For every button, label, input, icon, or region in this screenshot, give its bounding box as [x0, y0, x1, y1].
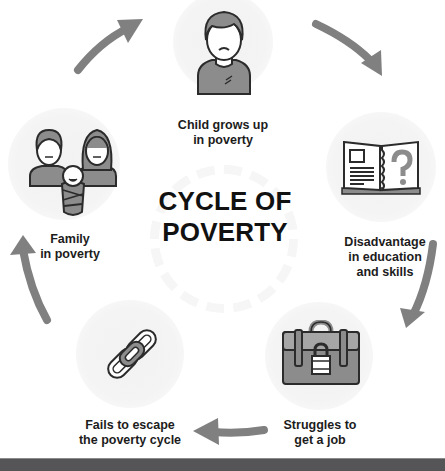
stage-label-line: the poverty cycle [70, 433, 190, 448]
stage-label-line: Disadvantage [330, 235, 440, 250]
stage-label-line: get a job [270, 433, 370, 448]
diagram-title: CYCLE OF POVERTY [140, 186, 310, 248]
stage-label-line: in education [330, 250, 440, 265]
cycle-of-poverty-diagram: Child grows up in poverty Disadvantage i… [0, 0, 445, 471]
stage-label-line: in poverty [170, 133, 276, 148]
chain-link-icon [96, 318, 168, 390]
book-question-icon [340, 136, 422, 202]
footer-bar [0, 458, 445, 471]
locked-briefcase-icon [281, 320, 361, 386]
stage-label-line: Family [20, 232, 120, 247]
arrow-family-to-child [78, 28, 128, 70]
family-icon [28, 124, 120, 219]
stage-label-job: Struggles to get a job [270, 418, 370, 448]
arrowhead-4 [193, 418, 219, 445]
stage-label-line: Child grows up [170, 118, 276, 133]
title-line-1: CYCLE OF [140, 186, 310, 217]
stage-label-escape: Fails to escape the poverty cycle [70, 418, 190, 448]
stage-label-child: Child grows up in poverty [170, 118, 276, 148]
stage-label-family: Family in poverty [20, 232, 120, 262]
stage-label-education: Disadvantage in education and skills [330, 235, 440, 280]
arrow-job-to-escape [213, 430, 264, 433]
stage-label-line: Struggles to [270, 418, 370, 433]
stage-label-line: in poverty [20, 247, 120, 262]
stage-label-line: and skills [330, 265, 440, 280]
arrow-child-to-education [316, 24, 370, 60]
title-line-2: POVERTY [140, 217, 310, 248]
arrowhead-3 [400, 308, 425, 328]
stage-label-line: Fails to escape [70, 418, 190, 433]
child-icon [190, 6, 258, 96]
